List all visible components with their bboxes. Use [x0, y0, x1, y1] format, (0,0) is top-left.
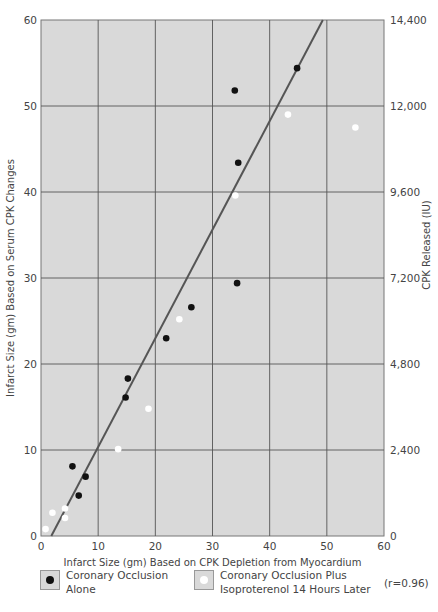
y2-tick-label: 7,200 [390, 272, 420, 284]
y-tick-label: 20 [24, 358, 37, 370]
data-point-occlusion-alone [235, 159, 242, 166]
data-point-occlusion-alone [82, 473, 89, 480]
x-tick-label: 0 [38, 540, 45, 552]
data-point-occlusion-alone [234, 280, 241, 287]
white-dot-icon [200, 576, 208, 584]
legend-swatch-black [40, 570, 60, 590]
y2-tick-label: 4,800 [390, 358, 420, 370]
y-tick-label: 40 [24, 186, 37, 198]
data-point-isoproterenol [176, 316, 183, 323]
data-point-occlusion-alone [75, 492, 82, 499]
legend: Coronary Occlusion Alone Coronary Occlus… [0, 568, 438, 608]
legend-label-isoproterenol: Coronary Occlusion Plus Isoproterenol 14… [220, 568, 371, 596]
y2-tick-label: 9,600 [390, 186, 420, 198]
legend-swatch-white [194, 570, 214, 590]
y-tick-label: 60 [24, 14, 37, 26]
data-point-occlusion-alone [188, 304, 195, 311]
correlation-coefficient: (r=0.96) [384, 577, 429, 589]
data-point-occlusion-alone [122, 394, 129, 401]
data-point-isoproterenol [232, 192, 239, 199]
y2-tick-label: 0 [390, 530, 397, 542]
x-tick-label: 20 [149, 540, 162, 552]
legend-label-occlusion-alone: Coronary Occlusion Alone [66, 568, 168, 596]
y-tick-label: 10 [24, 444, 37, 456]
data-point-isoproterenol [285, 111, 292, 118]
data-point-isoproterenol [352, 124, 359, 131]
y2-tick-label: 2,400 [390, 444, 420, 456]
legend-item-isoproterenol: Coronary Occlusion Plus Isoproterenol 14… [194, 568, 371, 596]
x-tick-label: 50 [320, 540, 333, 552]
data-point-isoproterenol [49, 509, 56, 516]
y-tick-label: 30 [24, 272, 37, 284]
scatter-chart: 010203040506000102,400204,800307,200409,… [0, 0, 438, 612]
data-point-isoproterenol [115, 446, 122, 453]
y2-tick-label: 12,000 [390, 100, 427, 112]
data-point-occlusion-alone [163, 335, 170, 342]
data-point-occlusion-alone [69, 463, 76, 470]
x-tick-label: 10 [91, 540, 104, 552]
data-point-occlusion-alone [125, 375, 132, 382]
data-point-occlusion-alone [231, 87, 238, 94]
legend-item-occlusion-alone: Coronary Occlusion Alone [40, 568, 168, 596]
data-point-isoproterenol [145, 405, 152, 412]
y2-axis-title: CPK Released (IU) [421, 200, 432, 290]
x-axis-title: Infarct Size (gm) Based on CPK Depletion… [64, 557, 362, 568]
data-point-occlusion-alone [294, 65, 301, 72]
x-tick-label: 30 [206, 540, 219, 552]
x-tick-label: 60 [377, 540, 390, 552]
data-point-isoproterenol [62, 505, 69, 512]
y-tick-label: 50 [24, 100, 37, 112]
black-dot-icon [46, 576, 54, 584]
data-point-isoproterenol [62, 515, 69, 522]
data-point-isoproterenol [42, 526, 49, 533]
y-axis-title: Infarct Size (gm) Based on Serum CPK Cha… [5, 159, 16, 397]
y2-tick-label: 14,400 [390, 14, 427, 26]
y-tick-label: 0 [30, 530, 37, 542]
x-tick-label: 40 [263, 540, 276, 552]
